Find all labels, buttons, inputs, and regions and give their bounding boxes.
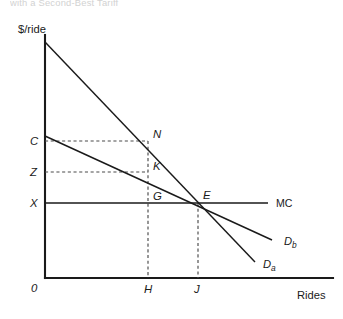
y-tick-label-z: Z (29, 166, 38, 178)
x-tick-label-h: H (144, 283, 153, 295)
x-tick-label-j: J (193, 283, 200, 295)
y-tick-label-x: X (29, 197, 38, 209)
demand-curve-db-line (45, 136, 272, 240)
curve-label-da-sub: a (271, 263, 276, 273)
curve-labels-group: MC Db Da (263, 197, 297, 273)
point-label-k: K (153, 160, 162, 172)
curve-label-mc: MC (276, 197, 293, 209)
curve-label-da: Da (263, 258, 276, 273)
x-tick-labels-group: H J (144, 283, 200, 295)
guide-lines-group (45, 141, 198, 278)
y-tick-label-c: C (30, 135, 39, 147)
curve-label-db-sub: b (292, 240, 297, 250)
curve-label-db: Db (284, 235, 297, 250)
demand-curve-da-line (45, 42, 255, 262)
economics-diagram: with a Second-Best Tariff $/ride Rides 0 (0, 0, 343, 319)
curve-label-da-main: D (263, 258, 271, 270)
point-label-n: N (153, 128, 162, 140)
point-label-e: E (203, 189, 211, 201)
curve-label-db-main: D (284, 235, 292, 247)
origin-label: 0 (31, 282, 38, 294)
point-label-g: G (153, 190, 162, 202)
diagram-canvas: $/ride Rides 0 C Z X H J (0, 0, 343, 319)
y-tick-labels-group: C Z X (29, 135, 39, 209)
partial-caption-text: with a Second-Best Tariff (10, 0, 240, 7)
y-axis-title: $/ride (18, 23, 46, 35)
x-axis-title: Rides (297, 289, 326, 301)
